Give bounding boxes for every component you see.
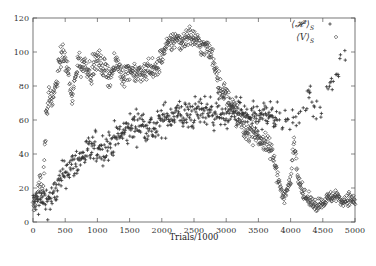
- data-point-h2: [181, 125, 184, 128]
- y-tick-label: 40: [19, 150, 29, 159]
- data-point-h2: [278, 111, 281, 114]
- data-point-h2: [209, 95, 212, 98]
- legend-label-v: ⟨V⟩S: [296, 32, 314, 44]
- data-point-h2: [270, 108, 273, 111]
- data-point-h2: [198, 120, 201, 123]
- data-point-h2: [318, 106, 321, 109]
- data-point-h2: [310, 100, 313, 103]
- data-point-h2: [193, 95, 196, 98]
- data-point-v: [145, 78, 149, 82]
- data-point-h2: [194, 102, 197, 105]
- data-point-v: [217, 69, 221, 73]
- y-tick-label: 60: [19, 116, 29, 125]
- x-axis-label: Trials/1000: [169, 232, 218, 242]
- data-point-h2: [239, 96, 242, 99]
- legend: ⟨𝓗²⟩S ⟨V⟩S: [291, 19, 338, 44]
- data-point-h2: [291, 108, 294, 111]
- data-point-h2: [271, 106, 274, 109]
- data-point-h2: [286, 118, 289, 121]
- data-point-h2: [64, 187, 67, 190]
- data-point-h2: [74, 154, 77, 157]
- x-tick-label: 4000: [280, 226, 300, 235]
- x-tick-label: 1500: [119, 226, 139, 235]
- data-point-h2: [294, 115, 297, 118]
- data-point-h2: [87, 136, 90, 139]
- data-point-v: [151, 56, 155, 60]
- data-point-h2: [150, 130, 153, 133]
- y-tick-label: 20: [19, 184, 29, 193]
- data-point-h2: [148, 127, 151, 130]
- data-point-h2: [92, 157, 95, 160]
- legend-label-h2: ⟨𝓗²⟩S: [291, 19, 314, 31]
- data-point-v: [42, 172, 46, 176]
- data-point-h2: [135, 107, 138, 110]
- x-tick-label: 500: [58, 226, 73, 235]
- data-point-h2: [124, 129, 127, 132]
- data-point-h2: [68, 166, 71, 169]
- data-point-h2: [320, 112, 323, 115]
- data-point-h2: [62, 159, 65, 162]
- data-point-h2: [343, 49, 346, 52]
- data-point-h2: [136, 112, 139, 115]
- data-point-h2: [75, 172, 78, 175]
- data-point-h2: [224, 107, 227, 110]
- data-point-h2: [101, 148, 104, 151]
- x-tick-label: 3500: [248, 226, 268, 235]
- data-point-v: [79, 75, 83, 79]
- data-point-h2: [148, 121, 151, 124]
- data-point-h2: [101, 134, 104, 137]
- data-point-h2: [252, 99, 255, 102]
- data-point-h2: [158, 124, 161, 127]
- data-point-h2: [339, 53, 342, 56]
- legend-entry-h2: ⟨𝓗²⟩S: [291, 19, 331, 31]
- data-point-h2: [205, 123, 208, 126]
- plot-border: [33, 18, 355, 222]
- data-point-h2: [61, 159, 64, 162]
- data-point-h2: [223, 123, 226, 126]
- data-point-h2: [59, 169, 62, 172]
- data-point-h2: [81, 151, 84, 154]
- data-point-h2: [220, 107, 223, 110]
- data-point-h2: [258, 109, 261, 112]
- data-point-h2: [156, 110, 159, 113]
- data-point-h2: [269, 100, 272, 103]
- data-point-h2: [288, 128, 291, 131]
- data-point-h2: [146, 134, 149, 137]
- data-point-h2: [315, 117, 318, 120]
- data-point-v: [292, 136, 296, 140]
- data-point-h2: [332, 80, 335, 83]
- data-point-h2: [90, 151, 93, 154]
- data-point-h2: [338, 57, 341, 60]
- data-point-h2: [292, 116, 295, 119]
- data-point-h2: [89, 156, 92, 159]
- data-point-h2: [128, 112, 131, 115]
- data-point-h2: [48, 191, 51, 194]
- legend-diamond-icon: [334, 35, 338, 39]
- data-point-v: [147, 57, 151, 61]
- data-point-h2: [70, 163, 73, 166]
- data-point-h2: [95, 159, 98, 162]
- data-point-h2: [309, 84, 312, 87]
- legend-marker-plus: [328, 22, 331, 25]
- data-point-h2: [297, 112, 300, 115]
- data-point-h2: [262, 101, 265, 104]
- y-tick-label: 80: [19, 82, 29, 91]
- data-point-h2: [267, 111, 270, 114]
- data-point-h2: [107, 159, 110, 162]
- data-point-h2: [283, 109, 286, 112]
- data-point-h2: [145, 132, 148, 135]
- data-point-h2: [278, 118, 281, 121]
- data-point-h2: [74, 165, 77, 168]
- data-point-h2: [312, 115, 315, 118]
- data-point-h2: [108, 133, 111, 136]
- data-point-h2: [85, 139, 88, 142]
- data-point-v: [263, 131, 267, 135]
- data-point-h2: [153, 127, 156, 130]
- data-point-h2: [75, 150, 78, 153]
- data-point-h2: [164, 137, 167, 140]
- data-point-h2: [178, 100, 181, 103]
- data-point-h2: [291, 121, 294, 124]
- data-point-h2: [136, 118, 139, 121]
- data-point-h2: [185, 121, 188, 124]
- plot-frame: [33, 18, 355, 222]
